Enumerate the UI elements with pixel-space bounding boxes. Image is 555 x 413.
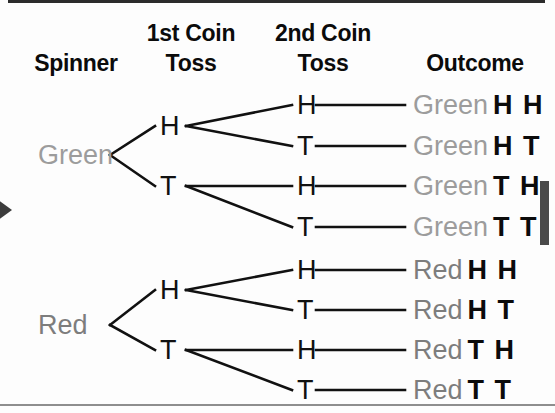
- outcome-toss-label: T T: [493, 212, 538, 242]
- coin2-node-5: T: [297, 295, 314, 326]
- coin2-node-7: T: [297, 375, 314, 406]
- outcome-color-label: Green: [413, 131, 488, 161]
- outcome-toss-label: H T: [493, 131, 541, 161]
- outcome-color-label: Green: [413, 171, 488, 201]
- outcome-row: RedH T: [413, 295, 516, 326]
- outcome-row: GreenT T: [413, 212, 538, 243]
- coin2-node-4: H: [297, 255, 317, 286]
- outcome-row: GreenH T: [413, 131, 541, 162]
- outcome-row: RedT T: [413, 375, 513, 406]
- coin2-node-0: H: [297, 90, 317, 121]
- coin2-node-3: T: [297, 212, 314, 243]
- outcome-toss-label: T H: [493, 171, 541, 201]
- tree-diagram-page: Spinner 1st Coin Toss 2nd Coin Toss Outc…: [0, 0, 555, 413]
- coin2-node-1: T: [297, 131, 314, 162]
- spinner-node-red: Red: [38, 310, 88, 341]
- coin1-node-3: T: [160, 335, 177, 366]
- outcome-row: RedT H: [413, 335, 516, 366]
- outcome-row: RedH H: [413, 255, 519, 286]
- outcome-toss-label: H H: [493, 90, 544, 120]
- outcome-toss-label: H H: [468, 255, 519, 285]
- coin1-node-2: H: [160, 275, 180, 306]
- outcome-row: GreenH H: [413, 90, 544, 121]
- outcome-color-label: Green: [413, 212, 488, 242]
- coin1-node-0: H: [160, 111, 180, 142]
- outcome-toss-label: T H: [468, 335, 516, 365]
- outcome-row: GreenT H: [413, 171, 541, 202]
- coin2-node-6: H: [297, 335, 317, 366]
- outcome-color-label: Red: [413, 335, 463, 365]
- coin1-node-1: T: [160, 171, 177, 202]
- outcome-color-label: Red: [413, 295, 463, 325]
- coin2-node-2: H: [297, 171, 317, 202]
- outcome-color-label: Red: [413, 255, 463, 285]
- spinner-node-green: Green: [38, 140, 113, 171]
- outcome-toss-label: H T: [468, 295, 516, 325]
- outcome-color-label: Green: [413, 90, 488, 120]
- outcome-toss-label: T T: [468, 375, 513, 405]
- outcome-color-label: Red: [413, 375, 463, 405]
